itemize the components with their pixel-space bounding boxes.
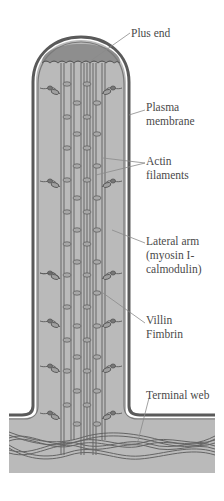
- label-actin-line1: Actin: [146, 154, 172, 168]
- label-lateral-arm-line2: (myosin I-: [146, 248, 194, 262]
- label-terminal-web: Terminal web: [146, 388, 209, 402]
- label-plasma-membrane-line2: membrane: [146, 114, 195, 128]
- label-lateral-arm-line1: Lateral arm: [146, 234, 199, 248]
- label-villin: Villin: [146, 313, 172, 327]
- label-plus-end: Plus end: [131, 26, 170, 40]
- label-lateral-arm-line3: calmodulin): [146, 262, 202, 276]
- plus-end-cap: [42, 44, 120, 62]
- label-fimbrin: Fimbrin: [146, 327, 183, 341]
- label-plasma-membrane-line1: Plasma: [146, 100, 179, 114]
- label-actin-line2: filaments: [146, 168, 189, 182]
